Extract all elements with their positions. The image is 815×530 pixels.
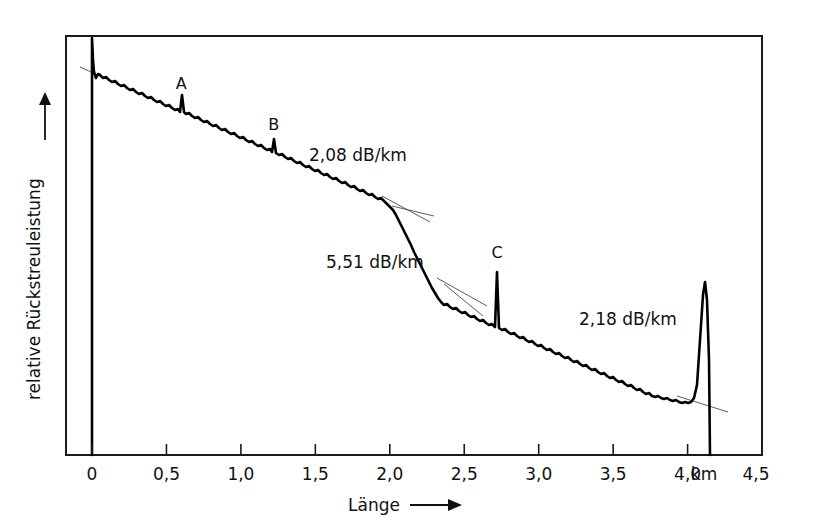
x-axis-unit-label: km: [691, 464, 717, 484]
tangent-line: [677, 396, 728, 412]
attenuation-label-2: 5,51 dB/km: [326, 252, 424, 272]
plot-frame: [66, 36, 762, 455]
x-axis-tick-label: 0: [87, 464, 98, 484]
backscatter-trace: [92, 38, 710, 455]
event-peak-labels: ABC: [176, 74, 503, 262]
x-axis-tick-label: 1,0: [227, 464, 254, 484]
x-axis-tick-label: 3,5: [600, 464, 627, 484]
event-label-b: B: [268, 115, 279, 134]
attenuation-label-1: 2,08 dB/km: [309, 145, 407, 165]
tangent-line: [437, 278, 487, 306]
event-label-a: A: [176, 74, 187, 93]
x-axis-tick-label: 3,0: [525, 464, 552, 484]
tangent-construction-lines: [80, 67, 728, 412]
right-arrow-icon: [410, 499, 462, 511]
x-axis-tick-label: 4,5: [743, 464, 770, 484]
x-axis-ticks: [92, 444, 762, 455]
x-axis-tick-labels: 00,51,01,52,02,53,03,54,04,5: [87, 464, 770, 484]
event-label-c: C: [491, 243, 502, 262]
otdr-chart-svg: 00,51,01,52,02,53,03,54,04,5 km Länge re…: [0, 0, 815, 530]
x-axis-tick-label: 1,5: [302, 464, 329, 484]
x-axis-tick-label: 2,0: [376, 464, 403, 484]
otdr-figure: 00,51,01,52,02,53,03,54,04,5 km Länge re…: [0, 0, 815, 530]
attenuation-label-3: 2,18 dB/km: [579, 309, 677, 329]
tangent-line: [392, 206, 434, 216]
x-axis-tick-label: 0,5: [153, 464, 180, 484]
y-axis-title: relative Rückstreuleistung: [24, 178, 44, 400]
x-axis-tick-label: 2,5: [451, 464, 478, 484]
up-arrow-icon: [39, 92, 51, 140]
x-axis-title: Länge: [348, 495, 400, 515]
